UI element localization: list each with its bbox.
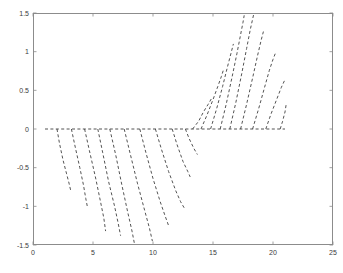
x-tick-label: 5 xyxy=(81,249,105,256)
y-tick-label: 0.5 xyxy=(0,87,29,94)
x-tick-label: 15 xyxy=(201,249,225,256)
y-tick-label: 1.5 xyxy=(0,10,29,17)
x-tick-label: 10 xyxy=(141,249,165,256)
x-tick-label: 20 xyxy=(261,249,285,256)
x-tick-label: 25 xyxy=(321,249,343,256)
plot-area xyxy=(33,13,333,245)
y-tick-label: 1 xyxy=(0,48,29,55)
y-tick-label: -1 xyxy=(0,203,29,210)
y-tick-label: -0.5 xyxy=(0,164,29,171)
y-tick-label: 0 xyxy=(0,126,29,133)
x-tick-label: 0 xyxy=(21,249,45,256)
figure-canvas: -1.5-1-0.500.511.5 0510152025 xyxy=(0,0,343,273)
axis-tick-marks xyxy=(33,13,333,245)
y-tick-label: -1.5 xyxy=(0,242,29,249)
